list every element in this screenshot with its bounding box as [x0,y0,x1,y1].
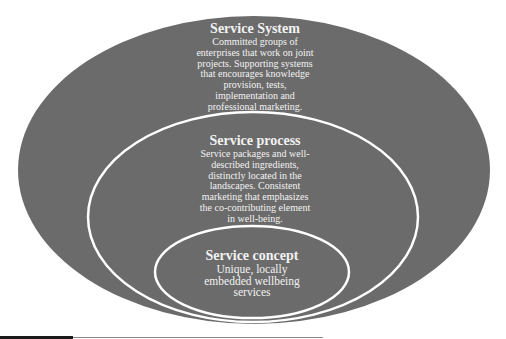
nested-ellipse-diagram: Service System Committed groups of enter… [0,0,506,339]
service-process-description: Service packages and well- described ing… [155,149,355,225]
description-line: services [172,287,332,299]
service-system-label: Service System Committed groups of enter… [155,21,355,113]
service-system-description: Committed groups of enterprises that wor… [155,37,355,113]
service-concept-description: Unique, locally embedded wellbeing servi… [172,264,332,299]
description-line: enterprises that work on joint [155,48,355,59]
service-concept-label: Service concept Unique, locally embedded… [172,248,332,299]
service-process-title: Service process [155,133,355,148]
description-line: Unique, locally [172,264,332,276]
bottom-rule [73,337,323,338]
service-system-title: Service System [155,21,355,36]
service-process-label: Service process Service packages and wel… [155,133,355,225]
description-line: described ingredients, [155,160,355,171]
description-line: in well-being. [155,214,355,225]
description-line: professional marketing. [155,102,355,113]
service-concept-title: Service concept [172,248,332,263]
